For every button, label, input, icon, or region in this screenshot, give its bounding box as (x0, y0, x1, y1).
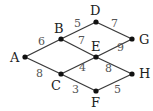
node-b (58, 36, 63, 41)
node-d (93, 19, 98, 24)
node-f (93, 88, 98, 93)
edge-weight-label: 7 (111, 17, 118, 30)
edge-weight-label: 4 (79, 61, 86, 74)
edge-e-g (96, 39, 132, 57)
node-label: F (91, 95, 100, 110)
node-g (129, 36, 134, 41)
graph-svg: 6857794835ABDGECFH (0, 0, 153, 111)
edge-weight-label: 3 (72, 83, 79, 96)
node-label: A (9, 50, 20, 65)
node-label: H (139, 66, 150, 81)
node-label: B (54, 21, 64, 36)
weighted-graph-diagram: 6857794835ABDGECFH (0, 0, 153, 111)
node-label: D (90, 3, 100, 18)
node-c (58, 71, 63, 76)
node-e (93, 54, 98, 59)
edge-weight-label: 5 (114, 83, 121, 96)
edge-weight-label: 8 (105, 62, 112, 75)
edge-weight-label: 7 (78, 34, 85, 47)
edge-weight-label: 9 (117, 41, 124, 54)
node-label: C (51, 78, 61, 93)
edge-weight-label: 5 (74, 17, 81, 30)
edge-weight-label: 6 (38, 35, 45, 48)
node-a (22, 54, 27, 59)
node-h (129, 71, 134, 76)
edge-a-c (25, 57, 61, 74)
node-label: G (139, 32, 149, 47)
edge-weight-label: 8 (36, 67, 43, 80)
node-label: E (91, 39, 101, 54)
edge-e-h (96, 57, 132, 74)
